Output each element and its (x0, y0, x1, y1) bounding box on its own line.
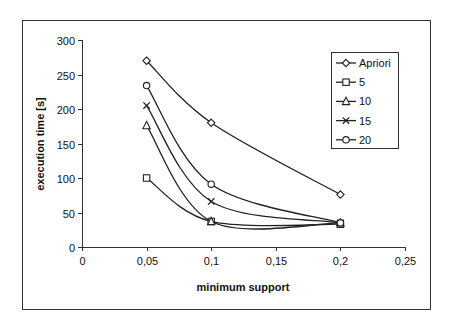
legend-label: 5 (359, 76, 365, 88)
legend: Apriori5101520 (332, 53, 399, 149)
legend-circle-icon (343, 137, 349, 143)
legend-square-icon (343, 79, 349, 85)
x-tick-label: 0,1 (204, 255, 219, 267)
legend-label: 10 (359, 95, 371, 107)
y-tick-label: 200 (57, 104, 75, 116)
x-tick-label: 0,15 (266, 255, 287, 267)
data-point-square-marker (143, 175, 149, 181)
x-tick-label: 0,05 (137, 255, 158, 267)
x-tick-label: 0 (79, 255, 85, 267)
legend-label: 20 (359, 134, 371, 146)
chart: 00,050,10,150,20,25050100150200250300 mi… (0, 0, 451, 331)
x-tick-label: 0,25 (395, 255, 416, 267)
data-point-circle-marker (143, 82, 149, 88)
x-axis-title: minimum support (197, 281, 290, 293)
y-axis-title: execution time [s] (34, 97, 46, 191)
data-point-circle-marker (337, 220, 343, 226)
y-tick-label: 300 (57, 35, 75, 47)
y-tick-label: 250 (57, 70, 75, 82)
y-tick-label: 0 (69, 242, 75, 254)
y-tick-label: 150 (57, 139, 75, 151)
data-point-circle-marker (208, 181, 214, 187)
y-tick-label: 100 (57, 173, 75, 185)
legend-label: Apriori (359, 57, 391, 69)
y-tick-label: 50 (63, 208, 75, 220)
legend-label: 15 (359, 115, 371, 127)
x-tick-label: 0,2 (333, 255, 348, 267)
